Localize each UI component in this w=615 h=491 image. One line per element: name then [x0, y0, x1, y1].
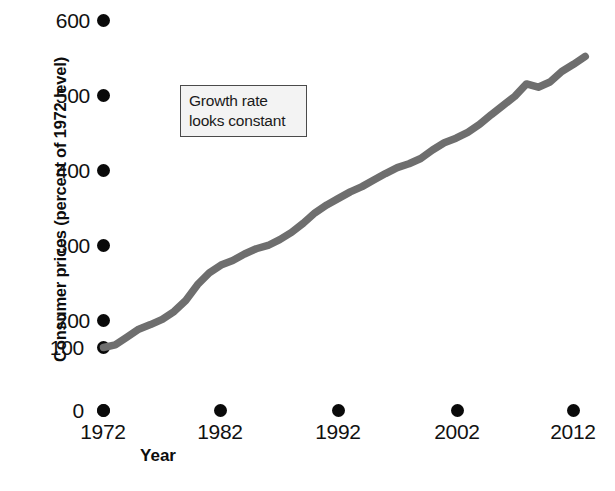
- consumer-price-line: [104, 56, 586, 347]
- plot-area: [0, 0, 615, 491]
- chart-figure: Consumer prices (percent of 1972 level) …: [0, 0, 615, 491]
- growth-rate-callout: Growth rate looks constant: [180, 85, 307, 137]
- callout-line-1: Growth rate: [189, 91, 299, 111]
- callout-line-2: looks constant: [189, 111, 299, 131]
